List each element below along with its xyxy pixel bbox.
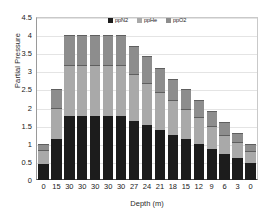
- x-axis-tick-label: 0: [41, 182, 45, 191]
- x-axis-tick-label: 30: [91, 182, 99, 191]
- bar-segment-pphe: [90, 65, 100, 116]
- x-axis-tick-label: 21: [156, 182, 164, 191]
- bar-segment-pphe: [103, 65, 113, 116]
- bar-segment-pphe: [51, 108, 61, 139]
- legend-item-pphe[interactable]: ppHe: [137, 17, 157, 23]
- bar-segment-ppo2: [129, 46, 139, 74]
- x-axis-tick-labels: 01530303030302724211815129630: [37, 182, 257, 196]
- x-axis-tick-label: 15: [182, 182, 190, 191]
- y-axis-tick-label: 3: [28, 67, 32, 76]
- bar-segment-pphe: [129, 74, 139, 120]
- bar-column[interactable]: [142, 17, 152, 180]
- y-axis-tick-label: 2.5: [22, 85, 32, 94]
- bar-segment-ppn2: [194, 144, 204, 180]
- legend-label: ppO2: [173, 17, 186, 23]
- bar-segment-ppo2: [219, 122, 229, 135]
- y-axis-tick-labels: 00.511.522.533.544.5: [0, 0, 36, 216]
- bar-segment-ppo2: [181, 89, 191, 108]
- legend-label: ppHe: [144, 17, 157, 23]
- x-axis-tick-label: 6: [223, 182, 227, 191]
- bar-segment-pphe: [207, 126, 217, 149]
- legend-item-ppn2[interactable]: ppN2: [108, 17, 128, 23]
- bar-segment-ppo2: [232, 133, 242, 142]
- bar-segment-pphe: [64, 65, 74, 116]
- x-axis-tick-label: 30: [117, 182, 125, 191]
- bar-segment-ppn2: [103, 116, 113, 180]
- bar-column[interactable]: [103, 17, 113, 180]
- bar-segment-ppo2: [51, 89, 61, 108]
- bar-segment-ppo2: [38, 144, 48, 150]
- x-axis-tick-label: 9: [210, 182, 214, 191]
- y-axis-tick-label: 3.5: [22, 49, 32, 58]
- x-axis-tick-label: 27: [130, 182, 138, 191]
- x-axis-title: Depth (m): [36, 199, 258, 208]
- bar-column[interactable]: [38, 17, 48, 180]
- bar-segment-pphe: [181, 109, 191, 140]
- bar-column[interactable]: [207, 17, 217, 180]
- bar-segment-pphe: [77, 65, 87, 116]
- bar-segment-ppo2: [207, 111, 217, 126]
- bar-segment-ppo2: [90, 35, 100, 65]
- y-axis-tick-label: 4.5: [22, 13, 32, 22]
- bar-segment-ppn2: [51, 139, 61, 180]
- bar-column[interactable]: [232, 17, 242, 180]
- x-axis-tick-label: 18: [169, 182, 177, 191]
- bar-segment-ppn2: [142, 125, 152, 180]
- bar-segment-pphe: [194, 117, 204, 144]
- bar-segment-pphe: [168, 100, 178, 135]
- bar-column[interactable]: [64, 17, 74, 180]
- bar-column[interactable]: [219, 17, 229, 180]
- y-axis-tick-label: 2: [28, 103, 32, 112]
- bar-segment-ppn2: [181, 139, 191, 180]
- y-axis-tick-label: 1.5: [22, 121, 32, 130]
- bar-segment-ppn2: [77, 116, 87, 180]
- bar-segment-ppn2: [155, 130, 165, 180]
- bar-segment-ppn2: [129, 121, 139, 180]
- x-axis-tick-label: 24: [143, 182, 151, 191]
- bar-column[interactable]: [116, 17, 126, 180]
- bar-segment-ppo2: [116, 35, 126, 65]
- bar-segment-ppo2: [77, 35, 87, 65]
- y-axis-tick-label: 0.5: [22, 157, 32, 166]
- bar-column[interactable]: [129, 17, 139, 180]
- bar-column[interactable]: [181, 17, 191, 180]
- bar-segment-ppo2: [155, 68, 165, 92]
- legend: ppN2ppHeppO2: [108, 17, 186, 23]
- legend-swatch-icon: [137, 18, 142, 23]
- bar-segment-pphe: [232, 142, 242, 158]
- bar-column[interactable]: [77, 17, 87, 180]
- bar-segment-ppo2: [64, 35, 74, 65]
- x-axis-tick-label: 3: [235, 182, 239, 191]
- legend-label: ppN2: [115, 17, 128, 23]
- bar-column[interactable]: [168, 17, 178, 180]
- bar-segment-pphe: [245, 151, 255, 163]
- bar-segment-ppn2: [168, 135, 178, 180]
- bar-segment-ppo2: [103, 35, 113, 65]
- x-axis-tick-label: 15: [52, 182, 60, 191]
- x-axis-tick-label: 0: [248, 182, 252, 191]
- bar-segment-pphe: [142, 83, 152, 125]
- bar-segment-ppn2: [219, 154, 229, 180]
- x-axis-tick-label: 30: [65, 182, 73, 191]
- bar-segment-ppo2: [142, 56, 152, 83]
- y-axis-tick-label: 1: [28, 139, 32, 148]
- bar-column[interactable]: [155, 17, 165, 180]
- bar-segment-ppn2: [232, 158, 242, 180]
- bar-segment-ppn2: [116, 116, 126, 180]
- bar-segment-ppo2: [168, 79, 178, 101]
- bar-column[interactable]: [51, 17, 61, 180]
- x-axis-tick-label: 30: [78, 182, 86, 191]
- bar-column[interactable]: [194, 17, 204, 180]
- bar-segment-ppo2: [194, 100, 204, 117]
- bars-layer: [37, 17, 257, 180]
- legend-swatch-icon: [166, 18, 171, 23]
- bar-column[interactable]: [90, 17, 100, 180]
- partial-pressure-chart: Partial Pressure 00.511.522.533.544.5 01…: [0, 0, 271, 216]
- y-axis-tick-label: 4: [28, 31, 32, 40]
- bar-segment-ppn2: [64, 116, 74, 180]
- bar-segment-pphe: [155, 92, 165, 130]
- legend-item-ppo2[interactable]: ppO2: [166, 17, 186, 23]
- bar-segment-pphe: [38, 150, 48, 164]
- bar-segment-ppn2: [207, 149, 217, 180]
- bar-column[interactable]: [245, 17, 255, 180]
